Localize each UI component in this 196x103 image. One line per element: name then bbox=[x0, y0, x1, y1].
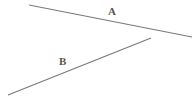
line-a-label: A bbox=[108, 5, 116, 17]
line-b bbox=[8, 38, 151, 95]
line-b-label: B bbox=[59, 55, 67, 67]
line-diagram: A B bbox=[0, 0, 196, 103]
